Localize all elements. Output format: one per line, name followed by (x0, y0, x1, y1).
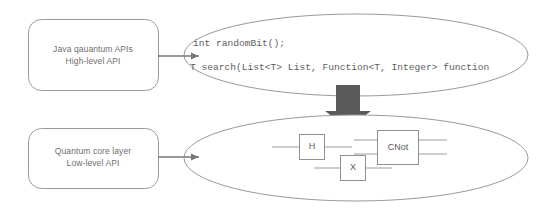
gate-cnot-box (378, 131, 419, 165)
high-level-box (29, 20, 159, 91)
gate-x-box (341, 156, 366, 181)
high-level-ellipse (184, 14, 528, 96)
diagram-canvas (0, 0, 559, 211)
high-level-connector-arrow (158, 52, 199, 59)
quantum-api-layer-diagram: Java qauantum APIs High-level API Quantu… (0, 0, 559, 211)
api-code-line-search: T search(List<T> List, Function<T, Integ… (190, 62, 489, 74)
api-code-line-random-bit: int randomBit(); (193, 38, 285, 50)
gate-h-box (300, 135, 325, 160)
low-level-connector-arrow (158, 153, 199, 160)
low-level-box (29, 129, 159, 189)
